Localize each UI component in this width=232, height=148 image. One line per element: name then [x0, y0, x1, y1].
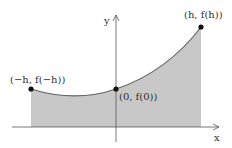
x-axis-label: x	[214, 133, 220, 143]
point-middle-label: (0, f(0))	[119, 92, 157, 102]
y-axis-label: y	[104, 16, 110, 26]
point-right-label: (h, f(h))	[184, 10, 223, 20]
point-right	[198, 24, 203, 29]
point-middle	[113, 86, 118, 91]
point-left-label: (−h, f(−h))	[10, 75, 65, 85]
simpson-rule-diagram: y x (−h, f(−h)) (0, f(0)) (h, f(h))	[0, 0, 232, 148]
point-left	[28, 86, 33, 91]
